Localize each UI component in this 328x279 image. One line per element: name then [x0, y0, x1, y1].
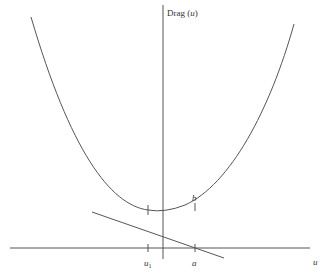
y-axis-label: Drag (u)	[167, 8, 198, 18]
tangent-line	[92, 212, 224, 258]
u1-label: u1	[144, 258, 152, 269]
b-label: b	[192, 193, 197, 203]
a-label: a	[192, 258, 197, 268]
x-axis-label: u	[313, 257, 318, 267]
drag-diagram: Drag (u) u u1 a b	[0, 0, 328, 279]
